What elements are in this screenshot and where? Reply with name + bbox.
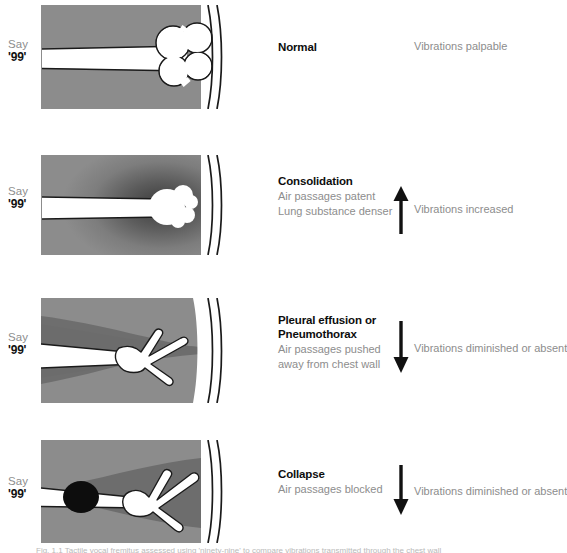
lung-diagram-collapse: [41, 440, 226, 543]
vibration-consolidation: Vibrations increased: [392, 184, 513, 234]
lung-diagram-normal: [41, 5, 226, 109]
say-word: Say: [8, 475, 40, 488]
figure-caption: Fig. 1.1 Tactile vocal fremitus assessed…: [36, 546, 536, 553]
panel-label-consolidation: Consolidation Air passages patent Lung s…: [278, 174, 403, 218]
panel-title-collapse: Collapse: [278, 467, 403, 481]
chest-wall-line-pleural: [208, 298, 213, 403]
chest-wall-outer-collapse: [217, 440, 222, 543]
airway-blockage-icon: [63, 481, 99, 513]
say-label-normal: Say '99': [8, 38, 40, 64]
vibration-text-collapse: Vibrations diminished or absent: [414, 485, 567, 497]
panel-label-pleural: Pleural effusion or Pneumothorax Air pas…: [278, 313, 403, 371]
panel-label-normal: Normal: [278, 40, 403, 54]
chest-wall-outer-normal: [217, 5, 222, 109]
vibration-normal: Vibrations palpable: [392, 40, 507, 52]
panel-title-normal: Normal: [278, 40, 403, 54]
say-label-pleural: Say '99': [8, 331, 40, 357]
say-number: '99': [8, 488, 40, 501]
chest-wall-line-consolidation: [208, 155, 213, 255]
lung-diagram-consolidation: [41, 155, 226, 255]
panel-title-pleural-line-1: Pleural effusion or: [278, 313, 403, 327]
say-number: '99': [8, 51, 40, 64]
arrow-up-icon: [392, 184, 414, 234]
bronchus-tube-consolidation: [42, 197, 165, 219]
chest-wall-outer-consolidation: [217, 155, 222, 255]
vibration-pleural: Vibrations diminished or absent: [392, 321, 567, 375]
vibration-text-pleural: Vibrations diminished or absent: [414, 342, 567, 354]
arrow-down-icon: [392, 465, 414, 517]
no-arrow: [392, 46, 414, 47]
panel-label-collapse: Collapse Air passages blocked: [278, 467, 403, 497]
say-word: Say: [8, 38, 40, 51]
chest-wall-line-collapse: [208, 440, 213, 543]
say-label-collapse: Say '99': [8, 475, 40, 501]
panel-subtitle-line-1: Air passages patent: [278, 189, 403, 204]
lung-diagram-pleural-effusion: [41, 298, 226, 403]
say-number: '99': [8, 198, 40, 211]
vibration-collapse: Vibrations diminished or absent: [392, 465, 567, 517]
say-word: Say: [8, 185, 40, 198]
arrow-down-icon: [392, 321, 414, 375]
vibration-text-consolidation: Vibrations increased: [414, 203, 513, 215]
say-label-consolidation: Say '99': [8, 185, 40, 211]
say-word: Say: [8, 331, 40, 344]
panel-subtitle-line-1: Air passages blocked: [278, 482, 403, 497]
panel-title-pleural-line-2: Pneumothorax: [278, 327, 403, 341]
chest-wall-outer-pleural: [217, 298, 222, 403]
alveolar-cluster-normal: [156, 23, 212, 86]
panel-subtitle-line-2: Lung substance denser: [278, 204, 403, 219]
say-number: '99': [8, 344, 40, 357]
panel-title-consolidation: Consolidation: [278, 174, 403, 188]
vibration-text-normal: Vibrations palpable: [414, 40, 507, 52]
panel-subtitle-line-1: Air passages pushed: [278, 342, 403, 357]
panel-subtitle-line-2: away from chest wall: [278, 357, 403, 372]
